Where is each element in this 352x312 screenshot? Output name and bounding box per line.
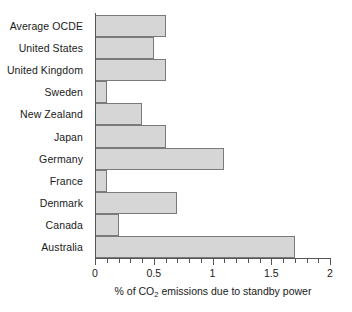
y-axis-label: France <box>0 170 88 192</box>
x-axis-major-tick <box>213 259 214 265</box>
y-axis-line <box>95 13 96 260</box>
y-axis-label: United Kingdom <box>0 59 88 81</box>
bar <box>95 236 295 258</box>
x-axis-minor-tick <box>260 259 261 263</box>
bar-row <box>95 81 330 103</box>
x-axis-major-tick <box>271 259 272 265</box>
x-axis-title: % of CO2 emissions due to standby power <box>95 285 331 297</box>
y-axis-label: Denmark <box>0 192 88 214</box>
bar-row <box>95 214 330 236</box>
x-axis-tick-label: 0.5 <box>146 267 161 279</box>
y-axis-label: Average OCDE <box>0 15 88 37</box>
x-axis-minor-tick <box>130 259 131 263</box>
x-axis-minor-tick <box>307 259 308 263</box>
y-axis-label: Germany <box>0 148 88 170</box>
x-axis-title-before: % of CO <box>115 285 155 297</box>
bar-row <box>95 125 330 147</box>
x-axis-tick-label: 1.5 <box>264 267 279 279</box>
bar <box>95 103 142 125</box>
x-axis-minor-tick <box>166 259 167 263</box>
x-axis-minor-tick <box>189 259 190 263</box>
x-axis-minor-tick <box>283 259 284 263</box>
bar <box>95 59 166 81</box>
bar-row <box>95 192 330 214</box>
bar-chart: Average OCDEUnited StatesUnited KingdomS… <box>0 0 352 312</box>
y-axis-label: United States <box>0 37 88 59</box>
bar <box>95 170 107 192</box>
x-axis-title-after: emissions due to standby power <box>158 285 311 297</box>
bar <box>95 37 154 59</box>
bar-row <box>95 59 330 81</box>
x-axis-minor-tick <box>119 259 120 263</box>
plot-area <box>95 15 330 258</box>
x-axis-major-tick <box>154 259 155 265</box>
x-axis-minor-tick <box>224 259 225 263</box>
x-axis-tick-label: 0 <box>92 267 98 279</box>
bar-row <box>95 37 330 59</box>
bar-row <box>95 170 330 192</box>
bar <box>95 81 107 103</box>
bar <box>95 192 177 214</box>
bar <box>95 148 224 170</box>
y-axis-category-labels: Average OCDEUnited StatesUnited KingdomS… <box>0 15 88 258</box>
y-axis-label: Sweden <box>0 81 88 103</box>
y-axis-label: Australia <box>0 236 88 258</box>
bar <box>95 214 119 236</box>
x-axis-title-subscript: 2 <box>154 290 158 299</box>
x-axis-minor-tick <box>177 259 178 263</box>
x-axis-tick-label: 2 <box>327 267 333 279</box>
bar-row <box>95 103 330 125</box>
x-axis-minor-tick <box>295 259 296 263</box>
x-axis-minor-tick <box>248 259 249 263</box>
bar-row <box>95 148 330 170</box>
bar-row <box>95 15 330 37</box>
x-axis-minor-tick <box>201 259 202 263</box>
x-axis-minor-tick <box>236 259 237 263</box>
bar-series <box>95 15 330 258</box>
y-axis-label: Canada <box>0 214 88 236</box>
x-axis-tick-label: 1 <box>210 267 216 279</box>
x-axis-minor-tick <box>142 259 143 263</box>
bar <box>95 15 166 37</box>
y-axis-label: New Zealand <box>0 103 88 125</box>
x-axis-major-tick <box>330 259 331 265</box>
bar <box>95 125 166 147</box>
x-axis-minor-tick <box>107 259 108 263</box>
x-axis-minor-tick <box>318 259 319 263</box>
x-axis-major-tick <box>95 259 96 265</box>
y-axis-label: Japan <box>0 125 88 147</box>
bar-row <box>95 236 330 258</box>
